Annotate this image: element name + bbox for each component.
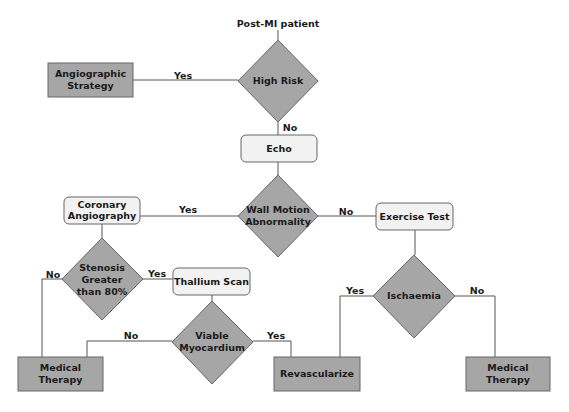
decision-ischaemia[interactable]: Ischaemia [373,255,455,338]
edge-label-high-risk-no: No [283,122,298,133]
decision-label-line-2: Greater [81,274,122,285]
process-exercise-test[interactable]: Exercise Test [376,203,453,230]
process-label: Thallium Scan [174,276,249,287]
terminal-label-line-2: Therapy [486,374,531,385]
decision-label: High Risk [253,75,304,86]
decision-stenosis[interactable]: Stenosis Greater than 80% [62,238,143,320]
terminal-label-line-1: Angiographic [55,68,126,79]
process-label-line-1: Coronary [78,199,128,210]
edge-label-viable-yes: Yes [266,330,285,341]
decision-high-risk[interactable]: High Risk [238,40,318,122]
connector-viable-yes [253,341,291,357]
start-label: Post-MI patient [237,18,320,29]
terminal-label-line-1: Medical [487,362,528,373]
terminal-revascularize[interactable]: Revascularize [274,357,360,391]
edge-label-stenosis-yes: Yes [147,268,166,279]
process-echo[interactable]: Echo [241,135,317,162]
process-thallium-scan[interactable]: Thallium Scan [173,268,250,295]
decision-wall-motion[interactable]: Wall Motion Abnormality [238,175,318,257]
process-label-line-2: Angiography [68,210,137,221]
connector-viable-no [87,341,172,357]
decision-label-line-1: Stenosis [79,262,125,273]
process-label: Exercise Test [380,211,450,222]
terminal-label-line-1: Medical [40,362,81,373]
decision-label-line-1: Viable [195,330,228,341]
decision-label-line-3: than 80% [77,286,128,297]
decision-label: Ischaemia [387,290,441,301]
flowchart: Post-MI patient High Risk Angiographic S… [0,0,569,412]
edge-label-viable-no: No [124,330,139,341]
terminal-label-line-2: Strategy [67,80,114,91]
terminal-medical-therapy-left[interactable]: Medical Therapy [18,357,103,391]
decision-label-line-1: Wall Motion [246,204,310,215]
process-label: Echo [266,143,292,154]
terminal-angiographic-strategy[interactable]: Angiographic Strategy [48,63,133,97]
edge-label-wall-yes: Yes [178,204,197,215]
terminal-label: Revascularize [280,368,354,379]
decision-label-line-2: Myocardium [179,342,245,353]
edge-label-ischaemia-yes: Yes [345,285,364,296]
terminal-medical-therapy-right[interactable]: Medical Therapy [466,357,550,391]
edge-label-stenosis-no: No [46,269,61,280]
process-coronary-angiography[interactable]: Coronary Angiography [64,197,140,224]
edge-label-wall-no: No [339,206,354,217]
terminal-label-line-2: Therapy [39,374,84,385]
decision-label-line-2: Abnormality [245,216,311,227]
connector-ischaemia-yes [340,296,373,357]
decision-viable-myocardium[interactable]: Viable Myocardium [172,301,253,384]
connector-stenosis-no [42,279,62,357]
edge-label-high-risk-yes: Yes [173,70,192,81]
edge-label-ischaemia-no: No [470,285,485,296]
connector-ischaemia-no [455,296,495,357]
